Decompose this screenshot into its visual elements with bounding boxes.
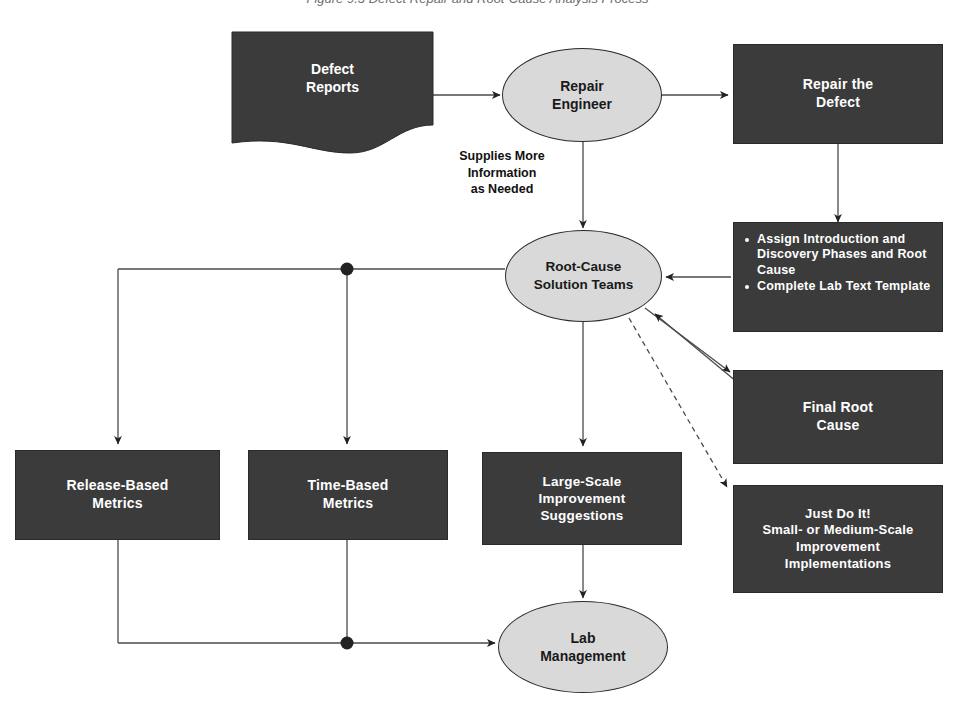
assign-tasks-bullet-item: Complete Lab Text Template: [744, 279, 934, 294]
node-defect-reports[interactable]: Defect Reports: [230, 30, 435, 155]
node-assign-tasks[interactable]: Assign Introduction and Discovery Phases…: [733, 222, 943, 332]
node-large-scale-suggestions[interactable]: Large-Scale Improvement Suggestions: [482, 452, 682, 545]
flowchart-canvas: Figure 9.3 Defect Repair and Root-Cause …: [0, 0, 955, 702]
upper-branch-junction-dot: [341, 263, 354, 276]
node-lab-management[interactable]: Lab Management: [498, 601, 668, 693]
node-final-root-cause[interactable]: Final Root Cause: [733, 370, 943, 464]
node-time-based-metrics[interactable]: Time-Based Metrics: [248, 450, 448, 540]
node-repair-engineer[interactable]: Repair Engineer: [502, 48, 662, 142]
node-just-do-it[interactable]: Just Do It! Small- or Medium-Scale Impro…: [733, 485, 943, 593]
node-final-root-cause-label: Final Root Cause: [803, 399, 873, 435]
node-large-scale-suggestions-label: Large-Scale Improvement Suggestions: [539, 473, 626, 525]
assign-tasks-bullet-list: Assign Introduction and Discovery Phases…: [744, 232, 934, 294]
node-root-cause-solution-teams[interactable]: Root-Cause Solution Teams: [505, 230, 662, 322]
node-root-cause-solution-teams-label: Root-Cause Solution Teams: [534, 258, 634, 293]
node-lab-management-label: Lab Management: [540, 629, 626, 665]
node-release-based-metrics[interactable]: Release-Based Metrics: [15, 450, 220, 540]
lower-merge-junction-dot: [341, 637, 354, 650]
node-time-based-metrics-label: Time-Based Metrics: [307, 477, 388, 513]
node-repair-the-defect-label: Repair the Defect: [803, 76, 873, 112]
edge-root-cause-to-final-root-cause: [645, 308, 730, 372]
node-repair-the-defect[interactable]: Repair the Defect: [733, 44, 943, 144]
edge-label-supplies-more-information: Supplies More Information as Needed: [437, 148, 567, 198]
node-just-do-it-label: Just Do It! Small- or Medium-Scale Impro…: [762, 506, 913, 573]
node-defect-reports-label: Defect Reports: [230, 60, 435, 96]
assign-tasks-bullet-item: Assign Introduction and Discovery Phases…: [744, 232, 934, 278]
edge-final-root-cause-to-root-cause: [655, 314, 737, 382]
node-repair-engineer-label: Repair Engineer: [552, 77, 612, 113]
node-release-based-metrics-label: Release-Based Metrics: [66, 477, 168, 513]
